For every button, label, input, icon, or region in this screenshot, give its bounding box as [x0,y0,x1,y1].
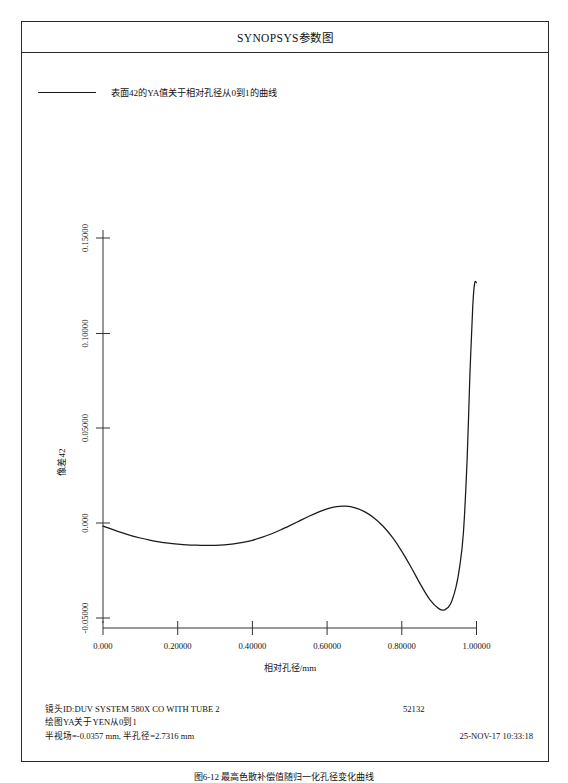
y-tick-label: 0.05000 [80,414,90,442]
field-info-text: 半视场=-0.0357 mm, 半孔径=2.7316 mm [45,731,194,741]
footer-info: 镜头ID:DUV SYSTEM 580X CO WITH TUBE 2 5213… [45,703,535,743]
x-tick-label: 0.20000 [164,641,192,651]
x-tick-label: 0.60000 [313,641,341,651]
y-tick-label: -0.05000 [80,603,90,634]
series-line-aberration-42 [103,281,477,610]
y-tick-label: 0.15000 [80,224,90,252]
plot-frame: SYNOPSYS参数图 表面42的YA值关于相对孔径从0到1的曲线 [21,21,549,762]
x-tick-label: 1.00000 [463,641,491,651]
x-axis-label: 相对孔径/mm [264,662,317,673]
page-root: SYNOPSYS参数图 表面42的YA值关于相对孔径从0到1的曲线 [0,0,568,783]
x-tick-labels: 0.000 0.20000 0.40000 0.60000 0.80000 1.… [93,641,490,651]
timestamp-text: 25-NOV-17 10:33:18 [460,730,533,743]
footer-row-lens: 镜头ID:DUV SYSTEM 580X CO WITH TUBE 2 5213… [45,703,535,716]
y-axis-label: 像差42 [56,449,67,476]
x-tick-label: 0.40000 [238,641,266,651]
plot-description-text: 绘图YA关于YEN从0到1 [45,717,137,727]
figure-caption: 图6-12 最高色散补偿值随归一化孔径变化曲线 [0,770,568,783]
chart-svg: 0.15000 0.10000 0.05000 0.000 -0.05000 像… [22,22,550,763]
y-tick-label: 0.10000 [80,320,90,348]
lens-id-text: 镜头ID:DUV SYSTEM 580X CO WITH TUBE 2 [45,704,220,714]
y-tick-label: 0.000 [80,513,90,532]
x-tick-label: 0.000 [93,641,112,651]
footer-row-plotdesc: 绘图YA关于YEN从0到1 [45,716,535,729]
x-tick-label: 0.80000 [388,641,416,651]
y-tick-labels: 0.15000 0.10000 0.05000 0.000 -0.05000 [80,224,90,633]
drawing-code: 52132 [403,703,424,716]
footer-row-field: 半视场=-0.0357 mm, 半孔径=2.7316 mm 25-NOV-17 … [45,730,535,743]
chart-plot-area: 0.15000 0.10000 0.05000 0.000 -0.05000 像… [22,22,550,763]
